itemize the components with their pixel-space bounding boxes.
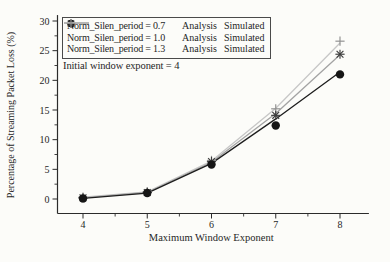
- analysis-line-0: [83, 72, 340, 198]
- circle-marker: [143, 189, 151, 197]
- plus-marker: [335, 37, 344, 46]
- legend-row: Norm_Silen_period = 0.7AnalysisSimulated: [67, 20, 265, 32]
- legend-analysis-label: Analysis: [182, 20, 224, 32]
- legend-series-label: Norm_Silen_period = 1.3: [67, 43, 182, 55]
- simulated-markers-1: [78, 50, 344, 203]
- plus-marker: [67, 19, 75, 27]
- circle-marker: [336, 70, 344, 78]
- y-tick-label: 15: [40, 105, 50, 116]
- figure: 05101520253045678Maximum Window Exponent…: [0, 0, 390, 262]
- legend-series-label: Norm_Silen_period = 1.0: [67, 32, 182, 44]
- legend-box: Norm_Silen_period = 0.7AnalysisSimulated…: [62, 17, 271, 59]
- x-axis-label: Maximum Window Exponent: [149, 232, 274, 243]
- y-tick-label: 5: [45, 164, 50, 175]
- asterisk-marker: [335, 50, 344, 59]
- asterisk-marker: [271, 111, 280, 120]
- x-tick-label: 6: [209, 219, 214, 230]
- legend-analysis-label: Analysis: [182, 43, 224, 55]
- x-tick-label: 8: [338, 219, 343, 230]
- analysis-line-1: [83, 55, 340, 198]
- legend-row: Norm_Silen_period = 1.3AnalysisSimulated: [67, 43, 265, 55]
- x-tick-label: 4: [81, 219, 86, 230]
- annotation-initial-window-exponent: Initial window exponent = 4: [63, 60, 179, 71]
- legend-analysis-label: Analysis: [182, 32, 224, 44]
- y-tick-label: 25: [40, 45, 50, 56]
- x-tick-label: 5: [145, 219, 150, 230]
- y-tick-label: 10: [40, 134, 50, 145]
- legend-simulated-label: Simulated: [224, 43, 265, 55]
- y-tick-label: 30: [40, 16, 50, 27]
- legend-simulated-label: Simulated: [224, 32, 265, 44]
- y-axis-label: Percentage of Streaming Packet Loss (%): [5, 32, 17, 198]
- legend-simulated-label: Simulated: [224, 20, 265, 32]
- circle-marker: [207, 160, 215, 168]
- legend-plus-icon: [65, 18, 77, 29]
- y-tick-label: 20: [40, 75, 50, 86]
- circle-marker: [272, 121, 280, 129]
- legend-row: Norm_Silen_period = 1.0AnalysisSimulated: [67, 32, 265, 44]
- simulated-markers-0: [79, 70, 344, 202]
- y-tick-label: 0: [45, 194, 50, 205]
- x-tick-label: 7: [273, 219, 278, 230]
- circle-marker: [79, 194, 87, 202]
